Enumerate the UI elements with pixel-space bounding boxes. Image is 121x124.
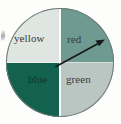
sector-divider-vertical	[59, 8, 61, 117]
spinner-wheel[interactable]	[6, 8, 114, 117]
spinner-figure: yellow red blue green	[0, 0, 121, 124]
sector-label-green: green	[66, 74, 91, 85]
sector-green[interactable]	[60, 63, 114, 118]
sector-blue[interactable]	[6, 63, 60, 118]
wheel-body	[6, 8, 114, 117]
scan-artifact	[1, 30, 5, 41]
sector-label-red: red	[67, 34, 81, 45]
sector-label-blue: blue	[28, 74, 47, 85]
sector-label-yellow: yellow	[14, 33, 45, 44]
